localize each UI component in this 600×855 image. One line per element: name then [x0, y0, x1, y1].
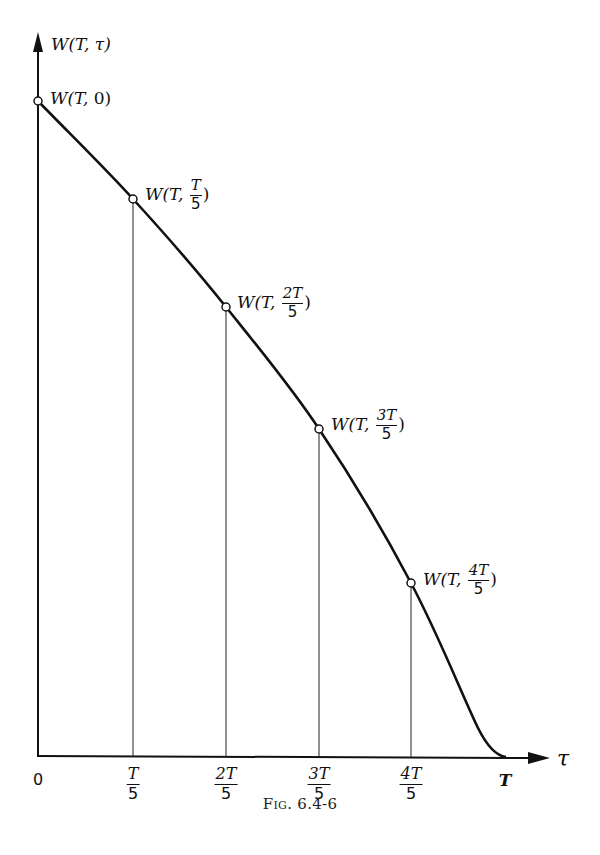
point-marker: [34, 97, 42, 105]
point-marker: [407, 579, 415, 587]
point-label-prefix: W(T,: [145, 184, 189, 204]
point-label-suffix: ): [398, 414, 405, 434]
point-marker: [222, 303, 230, 311]
fraction-denominator: 5: [288, 304, 298, 321]
point-label-1: W(T, T5): [145, 178, 209, 213]
point-label-suffix: ): [490, 569, 497, 589]
point-label-fraction: T5: [190, 178, 202, 213]
x-axis-arrow-icon: [528, 752, 550, 764]
point-label-suffix: ): [203, 184, 210, 204]
fraction-numerator: 4T: [400, 766, 423, 785]
point-label-prefix: W(T,: [423, 569, 467, 589]
fraction-numerator: T: [190, 178, 202, 196]
y-axis-arrow-icon: [33, 32, 43, 52]
x-tick-0: 0: [33, 770, 43, 789]
point-label-2: W(T, 2T5): [237, 286, 311, 321]
point-label-fraction: 3T5: [376, 408, 398, 443]
fraction-numerator: T: [127, 766, 140, 785]
fraction-numerator: 2T: [215, 766, 238, 785]
y-axis-label-args: (T, τ): [68, 34, 110, 54]
fraction-denominator: 5: [382, 426, 392, 443]
x-tick-label: T: [499, 770, 512, 790]
point-label-fraction: 2T5: [282, 286, 304, 321]
point-label-3: W(T, 3T5): [331, 408, 405, 443]
fraction-numerator: 3T: [308, 766, 331, 785]
figure-caption: Fig. 6.4-6: [0, 795, 600, 813]
point-marker: [315, 425, 323, 433]
point-label-suffix: ): [304, 292, 311, 312]
point-label-value: 0: [94, 88, 105, 108]
point-label-fraction: 4T5: [468, 563, 490, 598]
point-label-0: W(T, 0): [50, 90, 111, 107]
x-axis-label-text: τ: [557, 746, 569, 771]
y-axis-label-fn: W: [51, 34, 68, 54]
fraction-denominator: 5: [474, 581, 484, 598]
fraction-numerator: 4T: [468, 563, 490, 581]
fraction-denominator: 5: [191, 196, 201, 213]
x-tick-5: T: [499, 770, 512, 790]
x-axis-label: τ: [557, 748, 569, 770]
point-label-4: W(T, 4T5): [423, 563, 497, 598]
chart-figure: W(T, τ) W(T, 0) W(T, T5) W(T, 2T5) W(T, …: [0, 0, 600, 855]
point-label-prefix: W(T,: [331, 414, 375, 434]
y-axis-label: W(T, τ): [51, 36, 111, 53]
x-axis-line: [37, 756, 535, 758]
curve-w: [38, 101, 506, 757]
fraction-numerator: 3T: [376, 408, 398, 426]
point-label-suffix: ): [105, 88, 112, 108]
point-label-prefix: W(T,: [237, 292, 281, 312]
point-label-prefix: W(T,: [50, 88, 94, 108]
x-tick-label: 0: [33, 770, 43, 789]
point-marker: [129, 195, 137, 203]
chart-plot: [0, 0, 600, 855]
fraction-numerator: 2T: [282, 286, 304, 304]
